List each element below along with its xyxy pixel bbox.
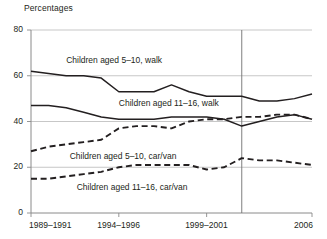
y-tick-label: 0 [3, 207, 23, 217]
y-tick-label: 20 [3, 161, 23, 171]
series-annotation: Children aged 11–16, walk [119, 98, 219, 108]
x-tick-label: 1994–1996 [97, 220, 140, 230]
chart-plot-area [0, 0, 327, 239]
series-annotation: Children aged 5–10, car/van [70, 151, 177, 161]
x-tick-label: 2006 [294, 220, 313, 230]
y-tick-label: 80 [3, 24, 23, 34]
y-tick-label: 60 [3, 70, 23, 80]
percentages-line-chart: Percentages 020406080 1989–19911994–1996… [0, 0, 327, 239]
series-line-4 [31, 158, 312, 179]
x-tick-label: 1989–1991 [29, 220, 72, 230]
x-tick-label: 1999–2001 [185, 220, 228, 230]
series-annotation: Children aged 5–10, walk [66, 55, 162, 65]
series-line-3 [31, 115, 312, 152]
y-tick-label: 40 [3, 116, 23, 126]
series-annotation: Children aged 11–16, car/van [77, 182, 188, 192]
